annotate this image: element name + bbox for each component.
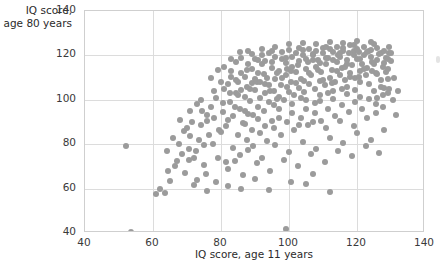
data-point (363, 143, 369, 149)
data-point (232, 104, 238, 110)
data-point (182, 170, 188, 176)
data-point (276, 68, 282, 74)
data-point (301, 89, 307, 95)
x-tick-label: 140 (404, 236, 444, 248)
data-point (206, 132, 212, 138)
data-point (162, 190, 168, 196)
data-point (244, 67, 250, 73)
data-point (249, 127, 255, 133)
data-point (286, 41, 292, 47)
data-point (266, 99, 272, 105)
data-point (303, 97, 309, 103)
data-point (339, 102, 345, 108)
data-point (153, 191, 159, 197)
data-point (201, 162, 207, 168)
data-point (255, 116, 261, 122)
data-point (221, 64, 227, 70)
data-point (177, 117, 183, 123)
data-point (259, 46, 265, 52)
data-point (247, 86, 253, 92)
data-point (242, 94, 248, 100)
data-point (344, 84, 350, 90)
data-point (313, 41, 319, 47)
data-point (220, 109, 226, 115)
data-point (262, 58, 268, 64)
data-point (291, 92, 297, 98)
data-point (385, 56, 391, 62)
data-point (164, 148, 170, 154)
data-point (313, 146, 319, 152)
data-point (368, 39, 374, 45)
data-point (123, 143, 129, 149)
data-point (286, 47, 292, 53)
data-point (191, 155, 197, 161)
data-point (227, 99, 233, 105)
data-point (208, 75, 214, 81)
data-point (293, 69, 299, 75)
data-point (247, 98, 253, 104)
data-point (213, 95, 219, 101)
data-point (351, 123, 357, 129)
data-point (274, 96, 280, 102)
data-point (242, 74, 248, 80)
data-point (259, 155, 265, 161)
data-point (235, 132, 241, 138)
data-point (170, 135, 176, 141)
data-point (244, 137, 250, 143)
data-point (359, 106, 365, 112)
data-point (284, 84, 290, 90)
data-point (184, 125, 190, 131)
data-point (272, 142, 278, 148)
data-point (368, 137, 374, 143)
data-point (385, 66, 391, 72)
data-point (381, 127, 387, 133)
data-point (289, 64, 295, 70)
data-point (204, 112, 210, 118)
data-point (337, 118, 343, 124)
data-point (272, 54, 278, 60)
data-point (198, 122, 204, 128)
data-point (215, 155, 221, 161)
data-point (261, 71, 267, 77)
data-point (391, 75, 397, 81)
y-tick-label: 80 (0, 136, 76, 148)
data-point (363, 72, 369, 78)
data-point (283, 60, 289, 66)
plot-area (84, 10, 424, 232)
data-point (366, 81, 372, 87)
data-point (262, 123, 268, 129)
data-point (172, 163, 178, 169)
data-point (330, 88, 336, 94)
data-point (373, 110, 379, 116)
data-point (262, 90, 268, 96)
data-point (179, 151, 185, 157)
data-point (296, 122, 302, 128)
data-point (204, 118, 210, 124)
data-point (255, 104, 261, 110)
data-point (300, 40, 306, 46)
data-point (276, 115, 282, 121)
data-point (300, 139, 306, 145)
data-point (390, 97, 396, 103)
data-point (208, 104, 214, 110)
data-point (371, 88, 377, 94)
data-point (380, 104, 386, 110)
data-point (232, 158, 238, 164)
data-point (312, 110, 318, 116)
data-point (315, 67, 321, 73)
data-point (218, 79, 224, 85)
data-point (128, 229, 134, 232)
gridline-vertical (221, 11, 222, 231)
data-point (334, 68, 340, 74)
data-point (194, 101, 200, 107)
data-point (227, 90, 233, 96)
data-point (327, 39, 333, 45)
data-point (271, 88, 277, 94)
data-point (325, 106, 331, 112)
data-point (211, 88, 217, 94)
data-point (366, 96, 372, 102)
data-point (330, 57, 336, 63)
data-point (271, 125, 277, 131)
y-tick-label: 120 (0, 47, 76, 59)
data-point (347, 74, 353, 80)
